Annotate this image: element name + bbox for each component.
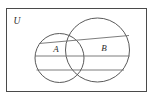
universal-set-label: U bbox=[14, 16, 22, 26]
slanted-chord-line bbox=[39, 36, 129, 44]
set-a-circle bbox=[35, 34, 84, 83]
venn-diagram-figure: U A B bbox=[0, 0, 153, 105]
set-a-label: A bbox=[52, 44, 59, 54]
set-b-label: B bbox=[101, 43, 107, 53]
set-b-circle bbox=[66, 18, 130, 82]
venn-diagram-canvas: U A B bbox=[0, 0, 153, 105]
universal-set-frame bbox=[7, 9, 147, 92]
